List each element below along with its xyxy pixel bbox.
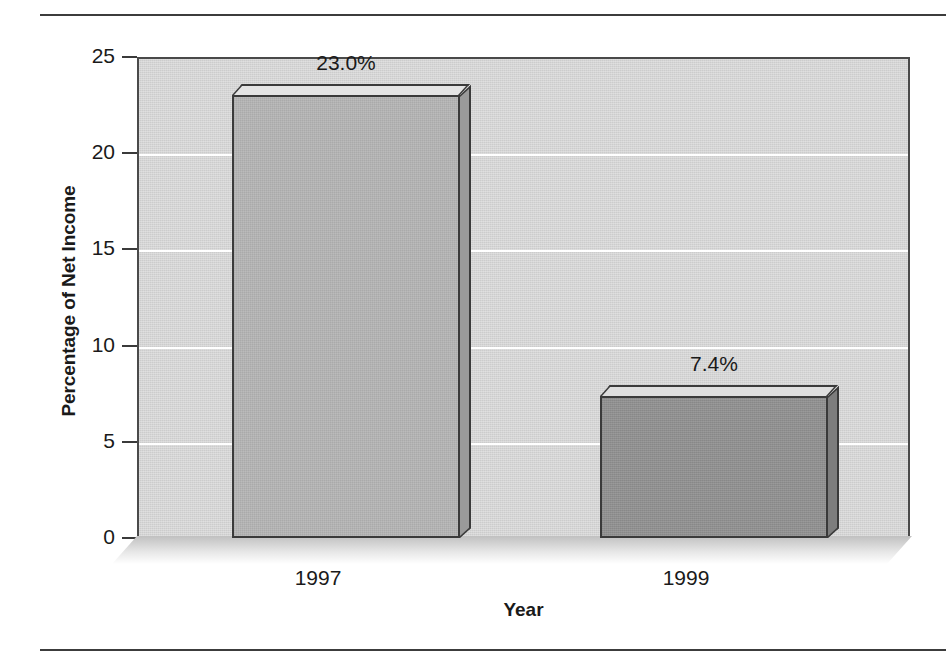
y-axis-tick-label: 5 [103, 429, 115, 453]
bar-value-label: 23.0% [232, 51, 460, 75]
bar-front-face [600, 396, 828, 538]
bar-side-face [460, 86, 471, 538]
bar-chart-figure: Percentage of Net Income 2520151050 23.0… [0, 0, 946, 668]
page-rule-bottom [40, 649, 946, 651]
y-axis-tick-label: 0 [103, 525, 115, 549]
chart-floor-3d [112, 536, 912, 566]
y-axis-tick-mark [122, 537, 137, 539]
bar-side-face [828, 386, 839, 538]
y-axis-tick-mark [122, 152, 137, 154]
x-axis-tick-label: 1997 [198, 566, 438, 590]
y-axis-tick-mark [122, 441, 137, 443]
page-rule-top [40, 14, 946, 16]
bar-1999[interactable]: 7.4% [600, 396, 828, 538]
bar-value-label: 7.4% [600, 352, 828, 376]
y-axis-tick-label: 25 [92, 44, 115, 68]
y-axis-tick-mark [122, 56, 137, 58]
y-axis-tick-label: 15 [92, 236, 115, 260]
y-axis-ticks: 2520151050 [0, 0, 137, 668]
x-axis-title: Year [137, 599, 910, 621]
bar-front-face [232, 95, 460, 538]
x-axis-tick-label: 1999 [566, 566, 806, 590]
y-axis-tick-mark [122, 345, 137, 347]
y-axis-tick-mark [122, 248, 137, 250]
bar-1997[interactable]: 23.0% [232, 95, 460, 538]
y-axis-tick-label: 10 [92, 333, 115, 357]
bar-top-face [600, 385, 838, 396]
y-axis-tick-label: 20 [92, 140, 115, 164]
bar-top-face [232, 84, 470, 95]
